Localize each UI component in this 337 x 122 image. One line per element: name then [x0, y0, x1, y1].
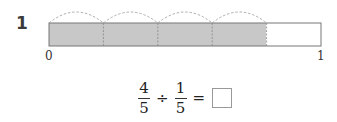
fraction-left: 4 5	[138, 81, 150, 116]
equals-sign: =	[193, 89, 206, 107]
equation: 4 5 ÷ 1 5 =	[136, 78, 232, 118]
numerator: 1	[175, 81, 187, 98]
divide-operator: ÷	[156, 89, 169, 107]
arc	[103, 12, 157, 23]
arc	[49, 12, 103, 23]
fraction-right: 1 5	[175, 81, 187, 116]
answer-box[interactable]	[212, 88, 232, 108]
arc	[212, 12, 266, 23]
denominator: 5	[176, 99, 186, 116]
numerator: 4	[138, 81, 150, 98]
label-zero: 0	[45, 49, 53, 63]
arc	[158, 12, 212, 23]
label-one: 1	[317, 49, 325, 63]
denominator: 5	[139, 99, 149, 116]
